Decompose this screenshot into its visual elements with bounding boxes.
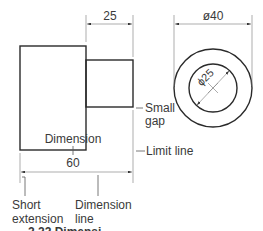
- dim-text-25: 25: [103, 9, 117, 23]
- label-short-1: Short: [12, 198, 41, 212]
- label-dimension-line-2: line: [75, 212, 94, 226]
- figure-caption: 2.22 Dimensi...: [28, 225, 111, 231]
- label-small-gap-1: Small: [145, 101, 175, 115]
- leader-short-extension: [22, 177, 25, 196]
- small-cylinder-outline: [86, 60, 133, 107]
- label-dimension: Dimension: [45, 132, 102, 146]
- dimensioning-diagram: 25 60 Dimension Small gap Limit line Sho…: [0, 0, 263, 231]
- label-limit-line: Limit line: [146, 144, 194, 158]
- label-dimension-line-1: Dimension: [75, 198, 132, 212]
- dim-text-60: 60: [66, 156, 80, 170]
- label-small-gap-2: gap: [145, 114, 165, 128]
- dim-text-40: ø40: [203, 9, 224, 23]
- label-short-2: extension: [12, 212, 63, 226]
